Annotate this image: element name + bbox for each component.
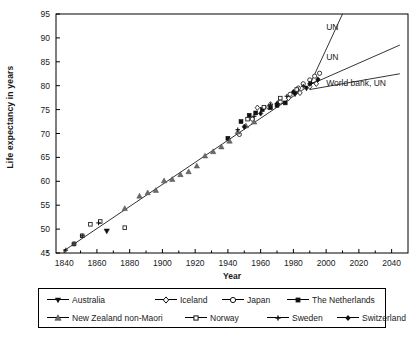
data-point-new-zealand-non-maori — [161, 178, 166, 183]
legend-item-label: Australia — [72, 295, 105, 305]
legend-symbol-icon — [342, 312, 354, 324]
legend-marker-triangle-down — [47, 294, 69, 305]
legend-item-label: The Netherlands — [312, 295, 375, 305]
annotation-label: UN — [326, 52, 338, 62]
legend-item-label: Iceland — [180, 295, 207, 305]
data-point-the-netherlands — [239, 120, 243, 124]
legend-item-switzerland[interactable]: Switzerland — [337, 309, 406, 326]
legend-item-iceland[interactable]: Iceland — [155, 291, 207, 308]
legend-symbol-icon — [52, 294, 64, 306]
annotation-label: World bank, UN — [326, 78, 386, 88]
data-point-norway — [279, 96, 283, 100]
legend-marker-diamond-open — [155, 294, 177, 305]
legend-marker-diamond-filled — [337, 312, 359, 323]
legend-marker-square-open — [185, 312, 207, 323]
legend-item-the-netherlands[interactable]: The Netherlands — [287, 291, 375, 308]
data-point-australia — [104, 229, 109, 234]
legend-symbol-icon — [272, 312, 284, 324]
data-point-norway — [246, 117, 250, 121]
annotation-label: UN — [326, 22, 338, 32]
data-point-norway — [89, 223, 93, 227]
legend-item-australia[interactable]: Australia — [47, 291, 105, 308]
legend-marker-cross — [267, 312, 289, 323]
legend-symbol-icon — [227, 294, 239, 306]
legend-marker-square-filled — [287, 294, 309, 305]
legend-item-label: Switzerland — [362, 313, 406, 323]
legend-item-label: Japan — [247, 295, 270, 305]
data-point-new-zealand-non-maori — [178, 172, 183, 177]
legend-row-1: AustraliaIcelandJapanThe Netherlands — [39, 291, 385, 308]
legend-item-label: New Zealand non-Maori — [72, 313, 163, 323]
legend-item-label: Norway — [210, 313, 239, 323]
legend-item-japan[interactable]: Japan — [222, 291, 270, 308]
legend-row-2: New Zealand non-MaoriNorwaySwedenSwitzer… — [39, 309, 385, 326]
data-point-new-zealand-non-maori — [145, 190, 150, 195]
data-point-norway — [123, 226, 127, 230]
data-point-the-netherlands — [283, 101, 287, 105]
trend-line — [64, 79, 319, 251]
legend-marker-circle-open — [222, 294, 244, 305]
legend-symbol-icon — [52, 312, 64, 324]
data-point-new-zealand-non-maori — [194, 163, 199, 168]
data-point-the-netherlands — [247, 113, 251, 117]
data-point-new-zealand-non-maori — [186, 169, 191, 174]
legend-item-new-zealand-non-maori[interactable]: New Zealand non-Maori — [47, 309, 163, 326]
x-axis-title: Year — [56, 271, 408, 281]
legend-marker-triangle-up — [47, 312, 69, 323]
legend-symbol-icon — [160, 294, 172, 306]
data-point-new-zealand-non-maori — [202, 153, 207, 158]
chart-legend: AustraliaIcelandJapanThe Netherlands New… — [38, 288, 386, 328]
data-point-iceland — [255, 105, 259, 110]
plot-frame — [56, 14, 408, 253]
legend-item-norway[interactable]: Norway — [185, 309, 239, 326]
chart-figure: Life expectancy in years 455055606570758… — [0, 0, 420, 339]
data-point-new-zealand-non-maori — [137, 193, 142, 198]
legend-item-sweden[interactable]: Sweden — [267, 309, 323, 326]
data-point-japan — [317, 71, 321, 75]
legend-symbol-icon — [292, 294, 304, 306]
data-point-norway — [262, 105, 266, 109]
data-point-japan — [313, 74, 317, 78]
legend-item-label: Sweden — [292, 313, 323, 323]
legend-symbol-icon — [190, 312, 202, 324]
data-point-norway — [295, 88, 299, 92]
